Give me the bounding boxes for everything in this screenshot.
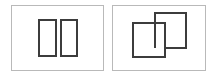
left-rectangle-a <box>39 20 56 56</box>
panel-left <box>11 5 103 70</box>
panel-right <box>112 5 205 70</box>
panel-left-frame <box>11 5 103 70</box>
figure-root <box>0 0 216 77</box>
left-rectangle-b <box>61 20 77 56</box>
figure-canvas <box>0 0 216 77</box>
right-rectangle-front <box>133 23 165 57</box>
